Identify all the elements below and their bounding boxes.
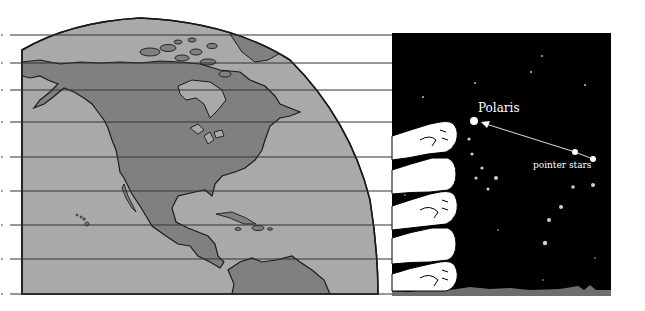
pointer-stars-label: pointer stars — [533, 160, 592, 170]
polaris-star — [470, 117, 478, 125]
night-sky-panel: Polaris pointer stars — [392, 33, 611, 296]
pointer-star-1 — [572, 149, 578, 155]
polaris-latitude-diagram: Polaris pointer stars — [0, 0, 645, 311]
globe — [22, 18, 378, 294]
puerto-rico — [268, 228, 273, 231]
hispaniola — [252, 226, 264, 231]
polaris-label: Polaris — [478, 101, 520, 115]
left-tick-marks — [1, 34, 3, 295]
jamaica — [235, 228, 241, 231]
